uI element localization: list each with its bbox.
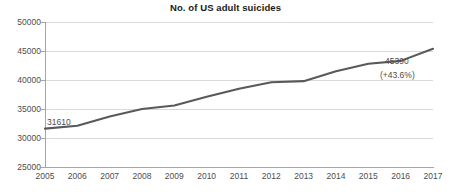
last-point-value-label: 45390 (385, 56, 409, 67)
x-axis-tick-label: 2008 (126, 172, 158, 181)
x-axis-tick-label: 2012 (255, 172, 287, 181)
chart-container: No. of US adult suicides 50000 45000 400… (0, 0, 451, 192)
x-axis-tick-label: 2013 (288, 172, 320, 181)
x-axis-tick-label: 2006 (61, 172, 93, 181)
series-line-layer (0, 0, 451, 192)
x-axis-tick-label: 2017 (417, 172, 449, 181)
x-axis-tick-label: 2005 (29, 172, 61, 181)
x-axis-tick-label: 2014 (320, 172, 352, 181)
x-axis-tick-label: 2010 (191, 172, 223, 181)
x-axis-tick-label: 2016 (385, 172, 417, 181)
x-axis-tick-label: 2011 (223, 172, 255, 181)
x-axis-tick-label: 2009 (158, 172, 190, 181)
last-point-change-label: (+43.6%) (380, 70, 415, 81)
first-point-value-label: 31610 (47, 117, 71, 128)
series-line-suicides (45, 49, 433, 129)
x-axis-tick-label: 2015 (352, 172, 384, 181)
x-axis-tick-label: 2007 (94, 172, 126, 181)
